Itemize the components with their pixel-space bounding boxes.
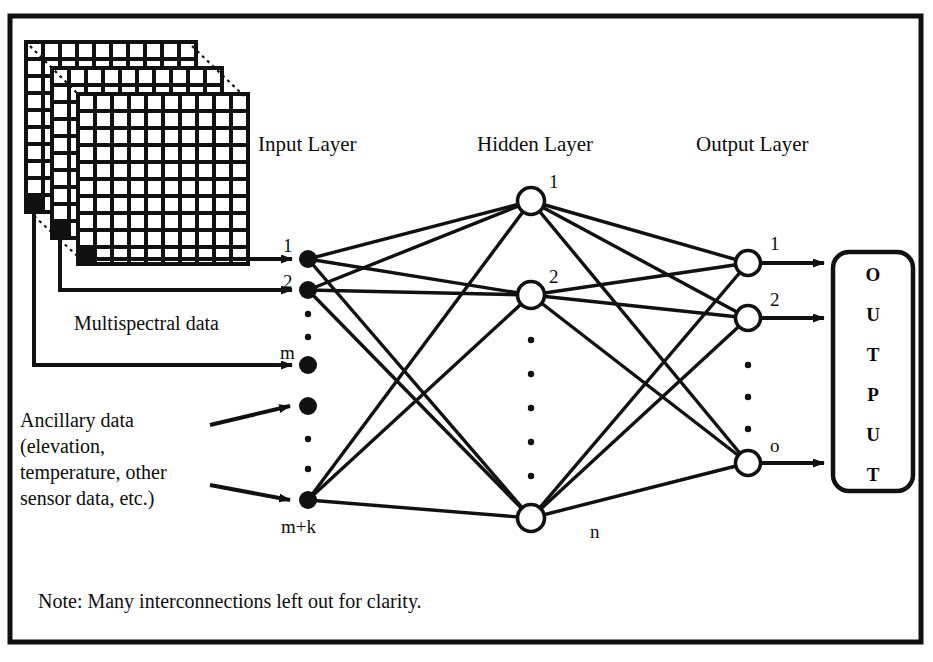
clarity-note: Note: Many interconnections left out for… bbox=[38, 590, 422, 613]
input-node-extra bbox=[299, 397, 317, 415]
hidden-node-2 bbox=[518, 282, 545, 309]
input-node-mk bbox=[299, 491, 317, 509]
output-box-letter-3: P bbox=[867, 384, 879, 405]
output-box: O U T P U T bbox=[833, 252, 913, 491]
input-layer-title: Input Layer bbox=[258, 132, 357, 156]
hidden-node-label-n: n bbox=[590, 521, 600, 542]
output-box-letter-1: U bbox=[866, 304, 880, 325]
raster-sheet-front bbox=[78, 94, 248, 264]
input-node-label-m: m bbox=[280, 342, 295, 363]
output-node-o bbox=[736, 451, 761, 476]
output-node-label-o: o bbox=[770, 435, 780, 456]
output-box-letter-0: O bbox=[866, 264, 881, 285]
hidden-layer-title: Hidden Layer bbox=[477, 132, 593, 156]
hidden-node-label-2: 2 bbox=[549, 266, 559, 287]
ancillary-line-3: sensor data, etc.) bbox=[20, 487, 154, 510]
ancillary-line-0: Ancillary data bbox=[20, 409, 134, 432]
ancillary-line-1: (elevation, bbox=[20, 435, 105, 458]
raster-stack bbox=[26, 42, 248, 264]
output-box-letter-5: T bbox=[867, 464, 880, 485]
ancillary-line-2: temperature, other bbox=[20, 461, 167, 484]
output-node-1 bbox=[736, 251, 761, 276]
hidden-node-1 bbox=[518, 188, 545, 215]
input-node-m bbox=[299, 356, 317, 374]
multispectral-data-label: Multispectral data bbox=[74, 312, 219, 335]
neural-network-diagram: O U T P U T Input Layer Hidden Layer Out… bbox=[0, 0, 933, 662]
output-layer-title: Output Layer bbox=[696, 132, 809, 156]
output-node-2 bbox=[736, 306, 761, 331]
hidden-node-n bbox=[518, 505, 545, 532]
input-node-2 bbox=[299, 281, 317, 299]
input-node-label-mk: m+k bbox=[281, 516, 316, 537]
output-box-letter-4: U bbox=[866, 424, 880, 445]
hidden-node-label-1: 1 bbox=[549, 171, 559, 192]
input-node-label-2: 2 bbox=[283, 271, 293, 292]
output-node-label-1: 1 bbox=[770, 233, 780, 254]
figure-root: O U T P U T Input Layer Hidden Layer Out… bbox=[0, 0, 933, 662]
output-box-letter-2: T bbox=[867, 344, 880, 365]
output-node-label-2: 2 bbox=[770, 289, 780, 310]
input-node-label-1: 1 bbox=[283, 235, 293, 256]
raster-highlight-cell-back bbox=[26, 195, 43, 212]
input-node-1 bbox=[299, 250, 317, 268]
